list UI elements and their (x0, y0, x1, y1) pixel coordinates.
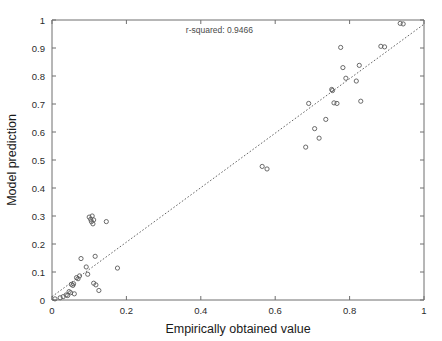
y-tick-label: 0.8 (32, 71, 45, 82)
trend-line (52, 24, 424, 296)
x-tick-label: 0 (49, 305, 54, 316)
y-tick-label: 0.5 (32, 155, 45, 166)
x-axis-title: Empirically obtained value (165, 322, 310, 336)
data-point-marker (354, 79, 358, 83)
data-point-marker (86, 272, 90, 276)
axis-ticks (52, 20, 424, 300)
plot-canvas: 00.20.40.60.8100.10.20.30.40.50.60.70.80… (0, 0, 442, 341)
y-tick-label: 0.9 (32, 43, 45, 54)
y-tick-label: 0.6 (32, 127, 45, 138)
y-tick-label: 0 (40, 295, 45, 306)
y-tick-label: 0.4 (32, 183, 45, 194)
data-point-marker (104, 220, 108, 224)
data-point-marker (341, 66, 345, 70)
x-tick-label: 1 (421, 305, 426, 316)
data-point-marker (304, 145, 308, 149)
x-tick-label: 0.4 (194, 305, 207, 316)
data-point-marker (344, 76, 348, 80)
r-squared-annotation: r-squared: 0.9466 (186, 25, 253, 35)
scatter-plot-figure: 00.20.40.60.8100.10.20.30.40.50.60.70.80… (0, 0, 442, 341)
data-point-marker (97, 288, 101, 292)
data-point-marker (93, 254, 97, 258)
y-tick-label: 0.2 (32, 239, 45, 250)
x-tick-label: 0.2 (120, 305, 133, 316)
data-point-marker (357, 63, 361, 67)
data-point-marker (307, 101, 311, 105)
axis-tick-labels: 00.20.40.60.8100.10.20.30.40.50.60.70.80… (32, 15, 427, 317)
y-tick-label: 1 (40, 15, 45, 26)
data-point-marker (115, 266, 119, 270)
data-point-marker (339, 45, 343, 49)
data-point-marker (317, 136, 321, 140)
y-tick-label: 0.3 (32, 211, 45, 222)
data-point-marker (401, 22, 405, 26)
data-point-marker (359, 99, 363, 103)
plot-border (52, 20, 424, 300)
data-points (53, 21, 405, 301)
y-tick-label: 0.7 (32, 99, 45, 110)
data-point-marker (260, 164, 264, 168)
plot-frame (52, 20, 424, 300)
y-tick-label: 0.1 (32, 267, 45, 278)
data-point-marker (335, 101, 339, 105)
data-point-marker (324, 117, 328, 121)
data-point-marker (313, 127, 317, 131)
y-axis-title: Model prediction (5, 114, 19, 206)
data-point-marker (79, 256, 83, 260)
x-tick-label: 0.6 (269, 305, 282, 316)
data-point-marker (265, 167, 269, 171)
data-point-marker (84, 265, 88, 269)
regression-trend-line (52, 24, 424, 296)
x-tick-label: 0.8 (343, 305, 356, 316)
